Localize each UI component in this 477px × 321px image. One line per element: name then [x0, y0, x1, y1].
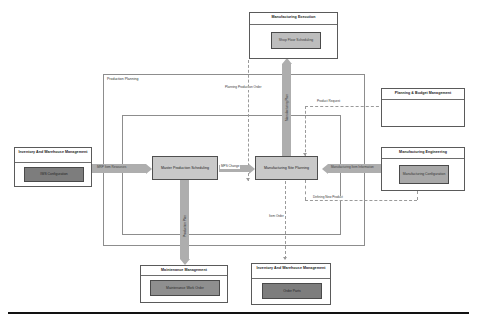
system-title-manufacturing-execution: Manufacturing Execution [250, 15, 337, 20]
system-title-rule [141, 275, 227, 276]
system-title-rule [252, 278, 330, 279]
dashed-arrow-planning-production-order [246, 178, 250, 181]
flow-label-mrp-item-resources: MRP Item Resources [96, 166, 127, 170]
module-order-parts[interactable]: Order Parts [262, 283, 322, 299]
system-title-rule [382, 158, 464, 159]
system-box-inventory-warehouse-left[interactable]: Inventory And Warehouse Management IWS C… [14, 147, 92, 187]
system-title-inventory-warehouse-bottom: Inventory And Warehouse Management [252, 266, 330, 271]
module-iws-configuration[interactable]: IWS Configuration [24, 167, 84, 182]
diagram-canvas: Production Planning Manufacturing Execut… [0, 0, 477, 321]
dashed-arrow-item-order [283, 257, 287, 260]
footer-divider [8, 312, 469, 314]
flow-label-mps-change: MPS Change [220, 165, 240, 169]
dashed-line-defining-new-product-horizontal [305, 200, 417, 201]
dashed-line-item-order [285, 181, 286, 259]
system-title-rule [15, 162, 91, 163]
system-title-maintenance-management: Maintenance Management [141, 268, 227, 273]
flow-label-product-request: Product Request [316, 100, 341, 104]
system-title-rule [382, 99, 464, 100]
dashed-line-defining-new-product-vertical-right [417, 191, 418, 200]
system-title-inventory-warehouse-left: Inventory And Warehouse Management [15, 150, 91, 155]
system-box-manufacturing-execution[interactable]: Manufacturing Execution Shop Floor Sched… [249, 12, 338, 59]
flow-label-production-plan: Production Plan [184, 214, 188, 238]
flow-label-manufacturing-plan: Manufacturing Plan [286, 93, 290, 122]
system-title-rule [250, 24, 337, 25]
dashed-line-defining-new-product-vertical-left [305, 180, 306, 200]
dashed-line-product-request-vertical [305, 106, 306, 157]
system-box-maintenance-management[interactable]: Maintenance Management Maintenance Work … [140, 265, 228, 303]
system-title-manufacturing-engineering: Manufacturing Engineering [382, 150, 464, 155]
process-master-production-scheduling[interactable]: Master Production Scheduling [152, 156, 218, 180]
container-label-production-planning: Production Planning [107, 77, 138, 81]
flow-label-item-order: Item Order [268, 215, 285, 219]
dashed-line-product-request-horizontal [305, 106, 384, 107]
flow-label-defining-new-product: Defining New Product [312, 196, 344, 200]
module-manufacturing-configuration[interactable]: Manufacturing Configuration [399, 165, 449, 184]
module-maintenance-work-order[interactable]: Maintenance Work Order [150, 280, 220, 296]
flow-label-planning-production-order: Planning Production Order [224, 86, 262, 90]
system-box-planning-budget-management[interactable]: Planning & Budget Management [381, 88, 465, 127]
flow-label-manufacturing-item-information: Manufacturing Item Information [330, 166, 375, 170]
system-title-planning-budget-management: Planning & Budget Management [382, 91, 464, 96]
process-manufacturing-site-planning[interactable]: Manufacturing Site Planning [255, 156, 318, 180]
system-box-inventory-warehouse-bottom[interactable]: Inventory And Warehouse Management Order… [251, 263, 331, 305]
system-box-manufacturing-engineering[interactable]: Manufacturing Engineering Manufacturing … [381, 147, 465, 191]
module-shop-floor-scheduling[interactable]: Shop Floor Scheduling [271, 32, 321, 49]
arrow-head-manufacturing-item-information [322, 164, 328, 174]
